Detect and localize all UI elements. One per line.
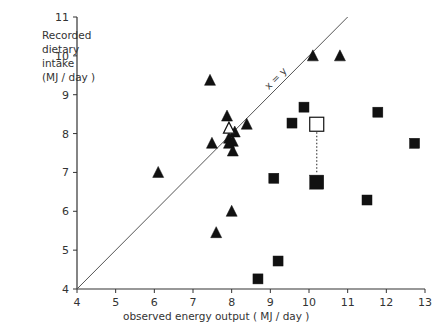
square-marker [410,138,420,148]
x-tick-label: 8 [228,296,235,309]
triangle-marker [206,137,217,148]
triangle-marker [241,118,252,129]
triangle-marker [211,227,222,238]
data-points [153,50,420,284]
triangle-marker [205,74,216,85]
reference-line-label: x = y [262,65,289,92]
square-marker [269,173,279,183]
y-tick-label: 4 [62,283,69,296]
y-tick-label: 9 [62,89,69,102]
square-marker [287,118,297,128]
x-tick-label: 6 [151,296,158,309]
x-tick-label: 7 [190,296,197,309]
square-large-marker [310,175,324,189]
square-marker [362,195,372,205]
triangle-marker [226,205,237,216]
y-tick-label: 7 [62,166,69,179]
y-tick-label: 5 [62,244,69,257]
y-tick-label: 8 [62,128,69,141]
triangle-marker [222,110,233,121]
square-marker [253,274,263,284]
triangle-marker [153,166,164,177]
x-tick-label: 13 [418,296,432,309]
x-tick-label: 11 [341,296,355,309]
y-tick-label: 6 [62,205,69,218]
y-tick-label: 11 [55,11,69,24]
square-marker [299,102,309,112]
square-open-marker [310,117,324,131]
x-tick-label: 12 [379,296,393,309]
x-tick-label: 10 [302,296,316,309]
triangle-open-marker [223,122,234,133]
square-marker [373,107,383,117]
x-tick-label: 9 [267,296,274,309]
axes: 456789101112134567891011 [55,11,432,309]
scatter-plot: 456789101112134567891011 x = y [0,0,440,332]
x-tick-label: 4 [74,296,81,309]
square-marker [273,256,283,266]
y-tick-label: 10 [55,50,69,63]
x-tick-label: 5 [112,296,119,309]
reference-line-x-equals-y: x = y [77,17,348,289]
triangle-marker [334,50,345,61]
